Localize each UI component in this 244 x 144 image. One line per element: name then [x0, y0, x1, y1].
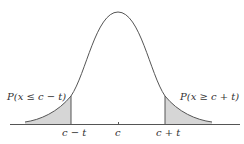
normal-distribution-diagram: P(x ≤ c − t) P(x ≥ c + t) c − t c c + t [0, 0, 244, 144]
tick-label-right: c + t [156, 127, 180, 138]
tick-label-center: c [115, 127, 121, 138]
right-tail-label: P(x ≥ c + t) [180, 91, 239, 102]
tick-label-left: c − t [62, 127, 86, 138]
bell-curve [25, 12, 212, 122]
distribution-graphic [0, 0, 244, 144]
left-tail-label: P(x ≤ c − t) [7, 91, 66, 102]
